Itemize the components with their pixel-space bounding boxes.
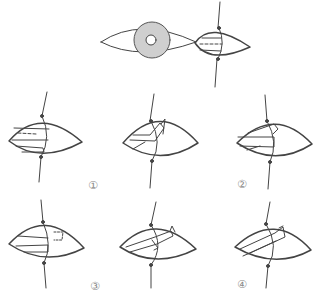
step-label-4: ④: [237, 279, 247, 290]
diagram-canvas: [0, 0, 317, 299]
detail-initial: [9, 92, 82, 182]
step-label-3: ③: [90, 281, 100, 292]
eye-overview: [101, 22, 196, 58]
detail-overview: [195, 2, 250, 87]
detail-step-1: [123, 94, 198, 188]
detail-step-3b: [120, 202, 196, 288]
step-label-2: ②: [237, 179, 247, 190]
detail-step-4: [235, 202, 311, 288]
step-label-1: ①: [88, 180, 98, 191]
detail-step-3: [9, 200, 84, 288]
detail-step-2: [237, 95, 312, 189]
